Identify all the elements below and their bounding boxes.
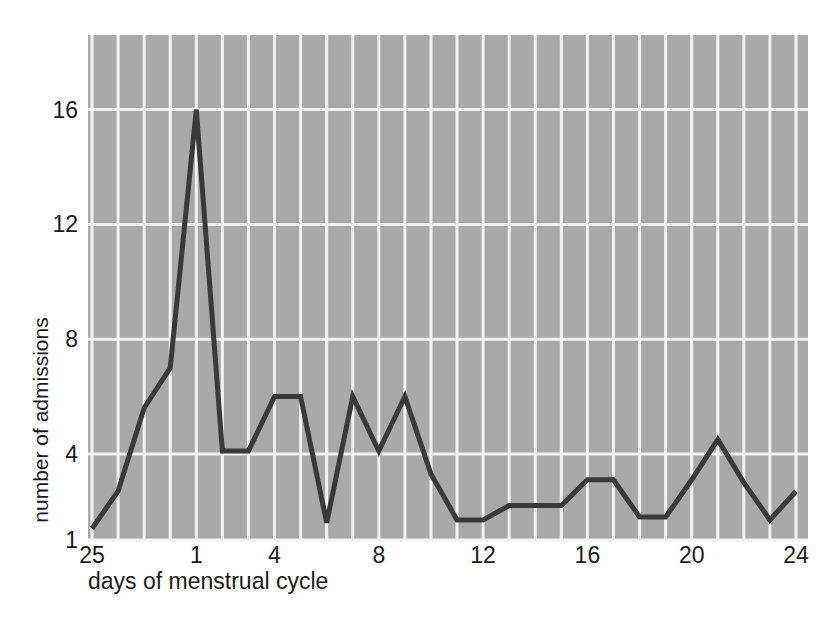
y-tick-label: 12 — [52, 211, 78, 237]
x-axis-label: days of menstrual cycle — [88, 568, 328, 594]
chart-figure: 2514812162024 1481216 days of menstrual … — [0, 0, 836, 620]
x-tick-label: 4 — [268, 542, 281, 568]
y-tick-label: 4 — [65, 441, 78, 467]
menstrual-cycle-admissions-line-chart: 2514812162024 1481216 days of menstrual … — [0, 0, 836, 620]
x-tick-label: 8 — [372, 542, 385, 568]
x-tick-label: 12 — [470, 542, 496, 568]
x-tick-label: 20 — [679, 542, 705, 568]
x-tick-label: 25 — [79, 542, 105, 568]
x-tick-label: 24 — [783, 542, 809, 568]
y-tick-label: 1 — [65, 527, 78, 553]
x-tick-label: 16 — [575, 542, 601, 568]
y-tick-label: 8 — [65, 326, 78, 352]
y-axis-label: number of admissions — [29, 317, 52, 522]
x-tick-label: 1 — [190, 542, 203, 568]
y-tick-label: 16 — [52, 97, 78, 123]
